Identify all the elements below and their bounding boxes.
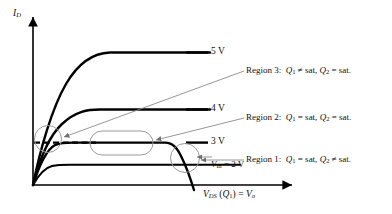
vin-value: = 2 V: [222, 159, 245, 169]
circle-region-1: [171, 144, 200, 173]
x-axis-label: VDS (Q1) = Vo: [203, 190, 255, 200]
curve-2v: [33, 165, 240, 185]
curve-label-5v: 5 V: [211, 47, 225, 57]
region-2-prefix: Region 2:: [246, 112, 281, 122]
y-axis-label: ID: [13, 9, 21, 19]
x-axis-label-v1-sub: DS: [209, 192, 217, 199]
x-axis-label-paren-close: ) =: [233, 189, 246, 199]
region-2-annotation: Region 2: Q1 = sat, Q2 = sat.: [246, 113, 351, 123]
x-axis-label-v2-sub: o: [252, 192, 255, 199]
figure-root: ID VDS (Q1) = Vo 5 V 4 V 3 V Vin = 2 V R…: [0, 0, 392, 214]
vin-annotation: Vin = 2 V: [211, 160, 244, 170]
region-2-op1: = sat,: [296, 112, 318, 122]
curve-label-4v: 4 V: [211, 104, 225, 114]
region-1-op1: = sat,: [296, 154, 318, 164]
region-3-annotation: Region 3: Q1 ≠ sat, Q2 = sat.: [246, 66, 351, 76]
region-3-op2: = sat.: [329, 65, 351, 75]
region-3-prefix: Region 3:: [246, 65, 281, 75]
region-1-prefix: Region 1:: [246, 154, 281, 164]
plot-canvas: [0, 0, 392, 214]
region-3-op1: ≠ sat,: [296, 65, 318, 75]
region-2-op2: = sat.: [329, 112, 351, 122]
leader-line-region-2: [156, 118, 244, 140]
curve-4v: [33, 110, 210, 186]
curve-label-3v: 3 V: [211, 137, 225, 147]
region-1-op2: ≠ sat.: [329, 154, 351, 164]
y-axis-label-sub: D: [16, 11, 21, 18]
region-1-annotation: Region 1: Q1 = sat, Q2 ≠ sat.: [246, 155, 351, 165]
